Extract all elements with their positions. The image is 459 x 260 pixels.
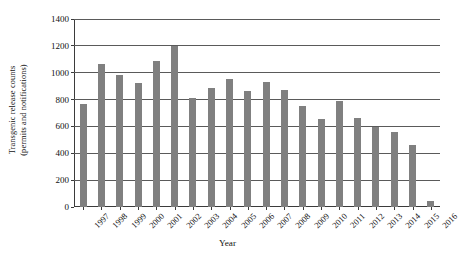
x-tick-label: 2009 <box>312 211 331 230</box>
x-tick-mark <box>358 207 359 210</box>
x-tick-label: 2006 <box>257 211 276 230</box>
y-tick-label: 400 <box>56 148 70 158</box>
gridline <box>74 19 440 20</box>
x-tick-label: 2004 <box>220 211 239 230</box>
gridline <box>74 99 440 100</box>
x-tick-mark <box>413 207 414 210</box>
x-tick-label: 2007 <box>275 211 294 230</box>
x-tick-mark <box>138 207 139 210</box>
y-tick-mark <box>71 180 74 181</box>
plot-area: 0200400600800100012001400 19971998199920… <box>74 19 440 207</box>
x-tick-label: 2005 <box>239 211 258 230</box>
x-tick-mark <box>156 207 157 210</box>
y-tick-label: 800 <box>56 95 70 105</box>
bar <box>171 46 178 207</box>
y-tick-mark <box>71 72 74 73</box>
x-tick-mark <box>303 207 304 210</box>
x-tick-label: 2003 <box>202 211 221 230</box>
bar <box>189 98 196 207</box>
x-tick-mark <box>211 207 212 210</box>
x-tick-label: 2012 <box>367 211 386 230</box>
gridline <box>74 45 440 46</box>
y-tick-mark <box>71 99 74 100</box>
x-tick-mark <box>83 207 84 210</box>
x-tick-label: 1999 <box>129 211 148 230</box>
x-tick-mark <box>248 207 249 210</box>
bar <box>244 91 251 207</box>
bar <box>354 118 361 207</box>
x-tick-label: 1998 <box>110 211 129 230</box>
x-tick-mark <box>193 207 194 210</box>
y-tick-label: 200 <box>56 175 70 185</box>
bar <box>391 132 398 207</box>
bar <box>208 88 215 208</box>
x-axis-line <box>74 206 440 207</box>
x-tick-label: 2015 <box>422 211 441 230</box>
gridline <box>74 180 440 181</box>
y-tick-label: 0 <box>65 202 70 212</box>
x-tick-label: 2016 <box>440 211 459 230</box>
bar <box>153 61 160 207</box>
x-tick-mark <box>376 207 377 210</box>
x-tick-mark <box>394 207 395 210</box>
x-tick-mark <box>431 207 432 210</box>
gridline <box>74 153 440 154</box>
x-tick-label: 2014 <box>403 211 422 230</box>
gridline <box>74 126 440 127</box>
bar <box>80 104 87 207</box>
x-tick-label: 2000 <box>147 211 166 230</box>
y-tick-mark <box>71 207 74 208</box>
x-tick-mark <box>284 207 285 210</box>
x-tick-mark <box>101 207 102 210</box>
gridline <box>74 72 440 73</box>
x-tick-label: 2001 <box>165 211 184 230</box>
y-tick-mark <box>71 126 74 127</box>
x-tick-mark <box>266 207 267 210</box>
x-tick-label: 2008 <box>293 211 312 230</box>
bar <box>116 75 123 207</box>
y-axis-title-line-1: Transgenic release counts <box>8 10 19 210</box>
bar <box>281 90 288 207</box>
y-tick-label: 1200 <box>51 41 69 51</box>
y-axis-title-line-2: (permits and notifications) <box>19 10 30 210</box>
bar <box>372 127 379 207</box>
y-tick-mark <box>71 19 74 20</box>
bar <box>263 82 270 207</box>
y-tick-label: 1000 <box>51 68 69 78</box>
y-tick-label: 1400 <box>51 14 69 24</box>
x-tick-label: 2010 <box>330 211 349 230</box>
bar <box>135 83 142 207</box>
x-tick-label: 2002 <box>184 211 203 230</box>
x-tick-mark <box>120 207 121 210</box>
bar <box>299 106 306 207</box>
x-tick-label: 2011 <box>348 211 367 230</box>
bar <box>336 101 343 207</box>
x-tick-mark <box>321 207 322 210</box>
bar <box>98 64 105 207</box>
bar <box>318 119 325 207</box>
y-tick-mark <box>71 45 74 46</box>
x-tick-mark <box>339 207 340 210</box>
x-tick-label: 2013 <box>385 211 404 230</box>
x-tick-label: 1997 <box>92 211 111 230</box>
x-axis-title: Year <box>0 238 455 248</box>
bar <box>226 79 233 207</box>
bar <box>409 145 416 207</box>
y-tick-mark <box>71 153 74 154</box>
y-axis-title: Transgenic release counts (permits and n… <box>8 10 38 210</box>
y-tick-label: 600 <box>56 121 70 131</box>
x-tick-mark <box>175 207 176 210</box>
x-tick-mark <box>230 207 231 210</box>
